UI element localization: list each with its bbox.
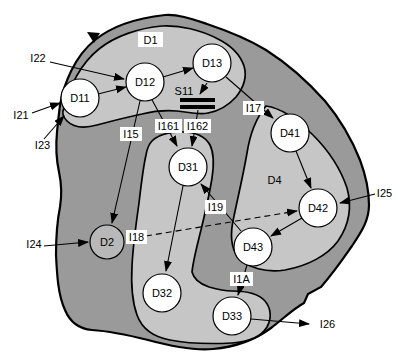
node-d2-label: D2 [100,236,114,248]
node-d33-label: D33 [222,310,242,322]
node-d12-label: D12 [135,76,155,88]
region-d1-label: D1 [143,34,157,46]
s11-label: S11 [175,85,194,97]
node-d13-label: D13 [202,57,222,69]
label-i24: I24 [26,238,41,250]
label-i21: I21 [13,109,28,121]
label-i15: I15 [123,128,138,140]
domain-diagram-svg: D11 D12 D13 D2 D31 D32 D33 D41 D42 D43 D… [0,0,404,362]
label-i25: I25 [377,187,392,199]
node-d31-label: D31 [178,161,198,173]
node-d42-label: D42 [308,202,328,214]
diagram-canvas: D11 D12 D13 D2 D31 D32 D33 D41 D42 D43 D… [0,0,404,362]
label-i26: I26 [320,318,335,330]
label-i22: I22 [30,52,45,64]
label-i162: I162 [187,120,208,132]
node-d43-label: D43 [243,241,263,253]
label-i23: I23 [35,139,50,151]
label-i1a: I1A [233,273,250,285]
node-d41-label: D41 [280,127,300,139]
label-i161: I161 [158,120,179,132]
node-d32-label: D32 [152,287,172,299]
label-i19: I19 [208,201,223,213]
region-d4-label: D4 [267,174,281,186]
label-i18: I18 [129,231,144,243]
node-d11-label: D11 [70,92,89,104]
edge-i21-into-d11 [32,103,60,113]
label-i17: I17 [246,102,261,114]
